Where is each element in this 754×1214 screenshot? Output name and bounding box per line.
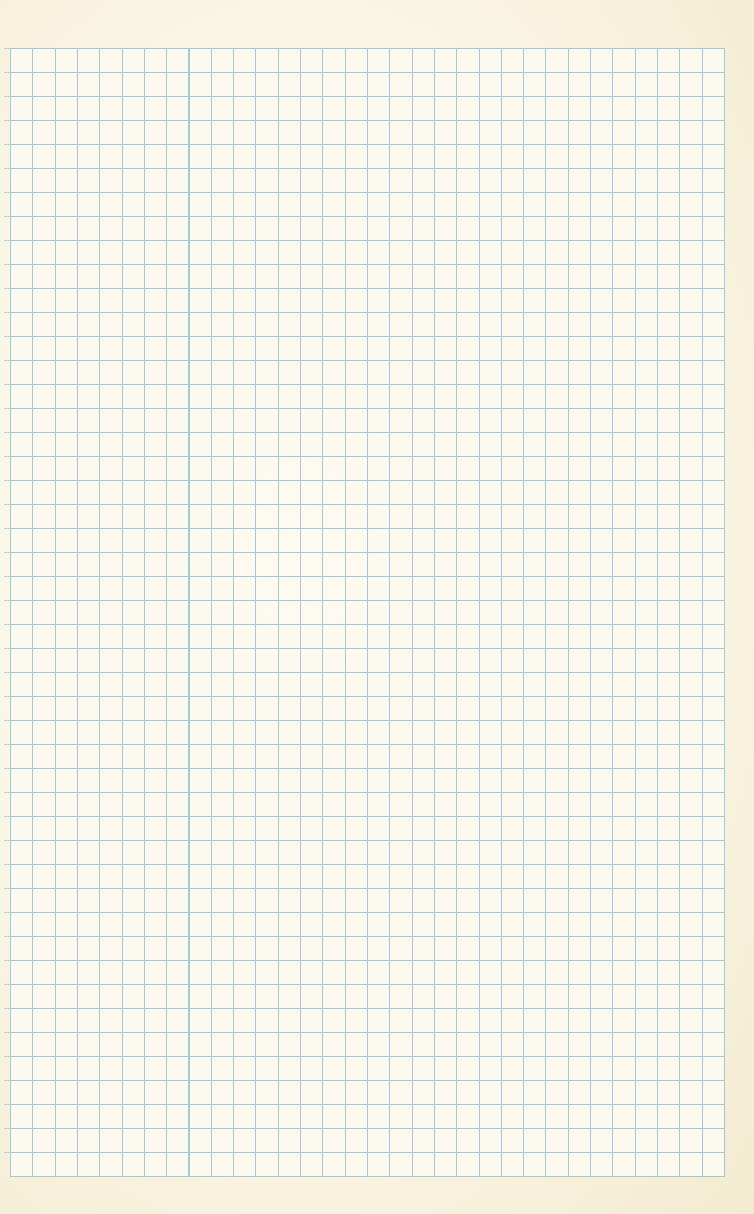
graph-paper-sheet: Blank graph paper xyxy=(0,0,754,1214)
left-margin-ticks xyxy=(0,48,10,1176)
grid-area xyxy=(10,48,725,1177)
